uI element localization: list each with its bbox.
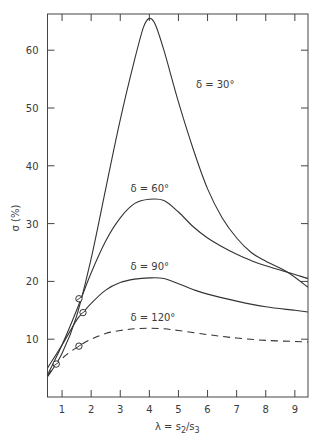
- tick-labels: 123456789102030405060: [26, 45, 298, 415]
- plot-border: [48, 14, 309, 397]
- x-tick-label: 8: [263, 404, 269, 415]
- y-tick-label: 40: [26, 161, 39, 172]
- curves: [48, 18, 308, 377]
- curve-label: δ = 30°: [196, 79, 235, 90]
- y-tick-label: 20: [26, 276, 39, 287]
- x-tick-label: 7: [233, 404, 239, 415]
- curve-label: δ = 60°: [130, 183, 169, 194]
- x-tick-label: 4: [146, 404, 152, 415]
- circle-marker: [76, 296, 82, 302]
- x-axis-title-mid: /s: [186, 421, 195, 432]
- plot-frame: [48, 14, 309, 397]
- y-tick-label: 50: [26, 103, 39, 114]
- x-tick-label: 3: [117, 404, 123, 415]
- x-tick-label: 1: [59, 404, 65, 415]
- x-tick-label: 5: [175, 404, 181, 415]
- curve-30-deg: [48, 18, 308, 377]
- curve-90-deg: [48, 278, 308, 368]
- curve-label: δ = 90°: [130, 261, 169, 272]
- y-tick-label: 30: [26, 219, 39, 230]
- axis-ticks: [48, 14, 309, 397]
- chart: 123456789102030405060 δ = 30°δ = 60°δ = …: [0, 0, 323, 444]
- y-tick-label: 60: [26, 45, 39, 56]
- curve-label: δ = 120°: [130, 312, 175, 323]
- curve-120-deg: [48, 328, 308, 376]
- y-axis-title: σ (%): [10, 204, 21, 231]
- circle-marker: [53, 361, 59, 367]
- x-axis-title: λ = s2/s3: [155, 421, 200, 435]
- x-tick-label: 9: [292, 404, 298, 415]
- x-tick-label: 6: [204, 404, 210, 415]
- y-tick-label: 10: [26, 334, 39, 345]
- circle-marker: [76, 343, 82, 349]
- x-axis-title-sub2: 3: [195, 426, 200, 435]
- circle-marker: [80, 309, 86, 315]
- curve-60-deg: [48, 199, 308, 375]
- x-tick-label: 2: [88, 404, 94, 415]
- x-axis-title-prefix: λ = s: [155, 421, 181, 432]
